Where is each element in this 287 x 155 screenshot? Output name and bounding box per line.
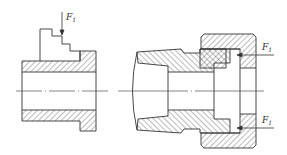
- left-force-label: F1: [65, 12, 76, 23]
- right-force-label-top: F1: [261, 42, 272, 53]
- lower-wall: [22, 110, 96, 131]
- upper-wall: [22, 51, 96, 72]
- left-part: [22, 29, 96, 131]
- stepped-jaw: [40, 29, 80, 61]
- sleeve-upper: [200, 49, 226, 68]
- left-force-arrow: [60, 12, 64, 35]
- right-force-label-bottom: F1: [261, 115, 272, 126]
- collet-lower: [137, 110, 230, 133]
- technical-drawing: F1 F1 F1: [0, 0, 287, 155]
